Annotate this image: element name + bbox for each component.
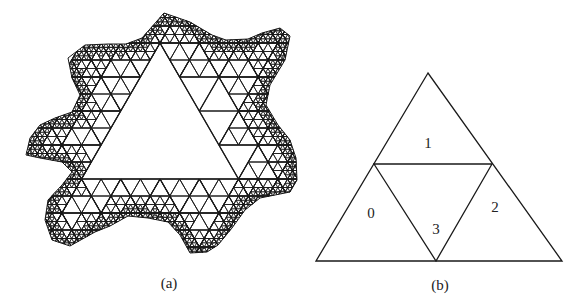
region-label-0: 0	[367, 205, 375, 222]
fractal-lattice	[23, 9, 317, 281]
region-label-1: 1	[424, 135, 432, 152]
caption-b: (b)	[431, 277, 449, 294]
inner-triangle-3	[374, 164, 492, 261]
sierpinski-fractal-figure	[23, 9, 317, 281]
caption-a: (a)	[161, 275, 178, 292]
region-label-3: 3	[432, 221, 440, 238]
region-label-2: 2	[491, 199, 499, 216]
figure-canvas	[0, 0, 584, 304]
